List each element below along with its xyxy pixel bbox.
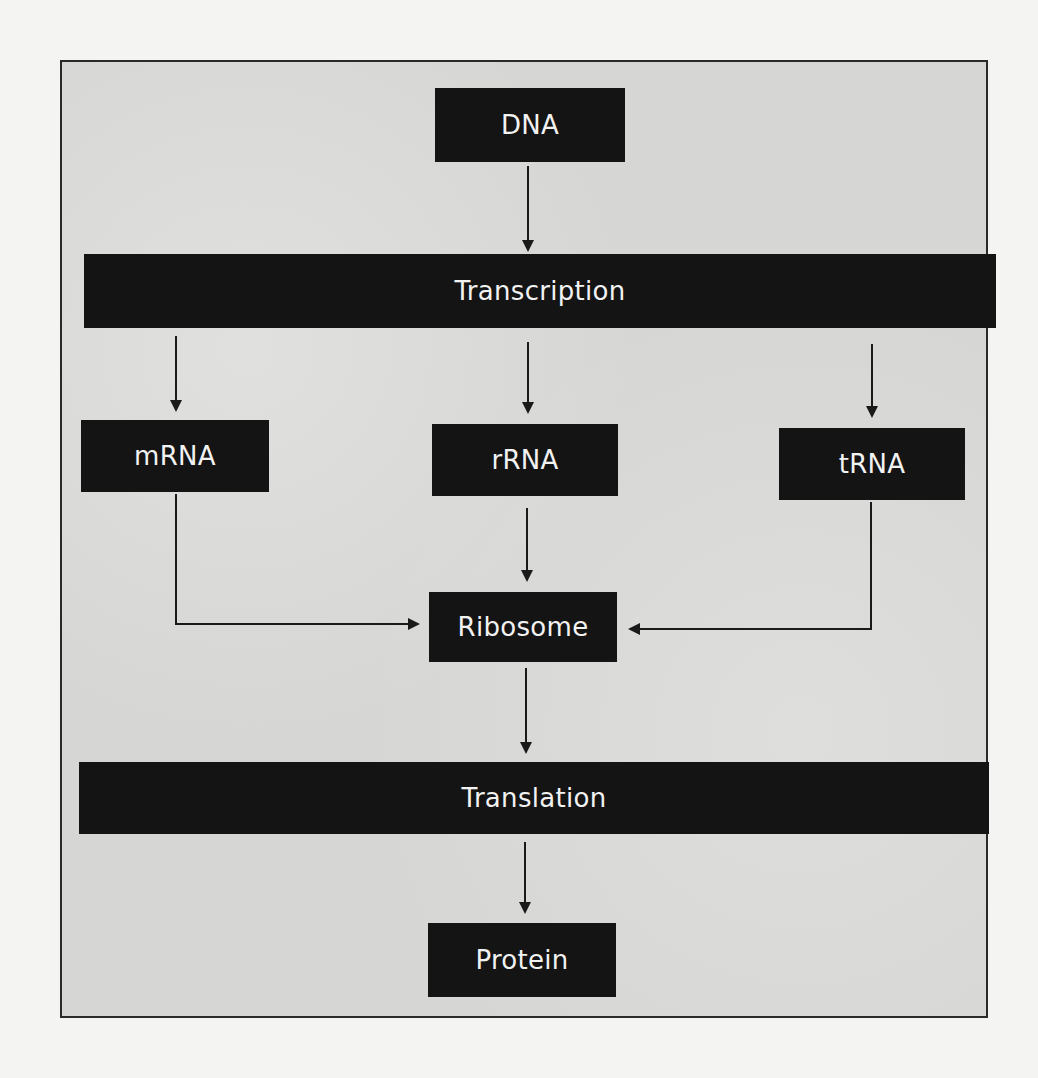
arrow-mrna-to-ribosome <box>176 494 418 624</box>
node-ribosome-label: Ribosome <box>458 612 589 642</box>
node-protein-label: Protein <box>475 945 568 975</box>
node-protein: Protein <box>428 923 616 997</box>
node-trna: tRNA <box>779 428 965 500</box>
arrow-trna-to-ribosome <box>630 502 871 629</box>
node-transcription-label: Transcription <box>454 276 625 306</box>
node-mrna-label: mRNA <box>134 441 216 471</box>
node-ribosome: Ribosome <box>429 592 617 662</box>
node-transcription: Transcription <box>84 254 996 328</box>
node-trna-label: tRNA <box>839 449 906 479</box>
node-mrna: mRNA <box>81 420 269 492</box>
node-translation-label: Translation <box>462 783 607 813</box>
node-dna: DNA <box>435 88 625 162</box>
node-rrna: rRNA <box>432 424 618 496</box>
node-dna-label: DNA <box>501 110 559 140</box>
node-translation: Translation <box>79 762 989 834</box>
node-rrna-label: rRNA <box>491 445 558 475</box>
